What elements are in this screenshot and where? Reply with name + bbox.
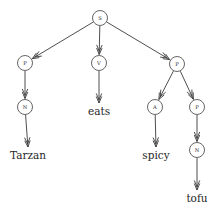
leaf-tofu-label: tofu bbox=[186, 192, 207, 204]
edge-np1-n1 bbox=[22, 71, 27, 99]
parse-tree-diagram: SPVPNAPN Tarzaneatsspicytofu bbox=[0, 0, 217, 209]
edges-layer bbox=[22, 22, 199, 190]
tree-node-n1-label: N bbox=[23, 104, 28, 110]
tree-node-n1[interactable]: N bbox=[18, 100, 33, 115]
edge-np2-np3 bbox=[180, 71, 193, 99]
tree-node-np2-label: P bbox=[175, 61, 179, 67]
edge-np3-n2 bbox=[194, 115, 199, 142]
edge-s-np1 bbox=[32, 22, 93, 59]
edge-n2-tofu bbox=[194, 158, 199, 190]
tree-node-a[interactable]: A bbox=[148, 100, 163, 115]
leaf-eats-label: eats bbox=[88, 105, 110, 117]
edge-np2-a bbox=[159, 71, 173, 99]
edge-n1-tarzan bbox=[25, 115, 31, 147]
edge-s-np2 bbox=[107, 22, 170, 60]
tree-node-n2[interactable]: N bbox=[190, 143, 205, 158]
edge-s-v bbox=[97, 26, 103, 55]
leaf-tarzan-label: Tarzan bbox=[10, 149, 46, 161]
tree-node-a-label: A bbox=[152, 104, 157, 110]
tree-node-s[interactable]: S bbox=[93, 11, 108, 26]
leaf-spicy-label: spicy bbox=[142, 149, 169, 161]
tree-node-np3-label: P bbox=[195, 104, 199, 110]
nodes-layer: SPVPNAPN bbox=[18, 11, 205, 158]
tree-node-n2-label: N bbox=[195, 147, 200, 153]
tree-node-np2[interactable]: P bbox=[170, 57, 185, 72]
tree-node-np1-label: P bbox=[23, 60, 27, 66]
tree-node-s-label: S bbox=[98, 15, 102, 21]
tree-node-v[interactable]: V bbox=[92, 56, 107, 71]
edge-a-spicy bbox=[153, 115, 159, 147]
edge-np2-a-line bbox=[159, 71, 173, 99]
leaves-layer: Tarzaneatsspicytofu bbox=[10, 105, 208, 204]
tree-node-v-label: V bbox=[96, 60, 101, 66]
edge-v-eats bbox=[96, 71, 101, 103]
edge-s-np2-line bbox=[107, 22, 170, 60]
edge-s-np1-line bbox=[32, 22, 93, 59]
tree-node-np3[interactable]: P bbox=[190, 100, 205, 115]
tree-node-np1[interactable]: P bbox=[18, 56, 33, 71]
parse-tree-svg: SPVPNAPN Tarzaneatsspicytofu bbox=[0, 0, 217, 209]
edge-np2-np3-line bbox=[180, 71, 193, 99]
